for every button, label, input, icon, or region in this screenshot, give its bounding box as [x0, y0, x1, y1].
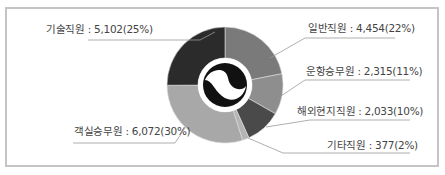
label-운항승무원: 운항승무원 : 2,315(11%): [306, 63, 422, 78]
leader-line-일반직원: [270, 38, 395, 58]
label-해외현지직원: 해외현지직원 : 2,033(10%): [297, 103, 423, 118]
leader-line-운항승무원: [281, 80, 410, 96]
emblem-icon: [198, 58, 252, 112]
label-일반직원: 일반직원 : 4,454(22%): [308, 20, 415, 35]
leader-line-해외현지직원: [266, 120, 410, 127]
label-기술직원: 기술직원 : 5,102(25%): [46, 21, 153, 36]
label-객실승무원: 객실승무원 : 6,072(30%): [74, 123, 190, 138]
label-기타직원: 기타직원 : 377(2%): [327, 137, 418, 152]
